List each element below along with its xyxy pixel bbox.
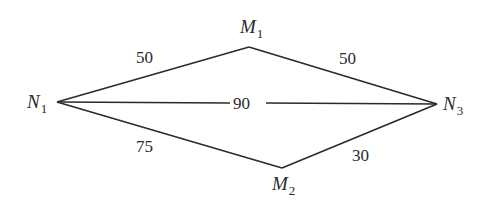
edge-n1-m1: [57, 47, 249, 102]
node-label-n1: N1: [26, 91, 47, 116]
weight-n1-m2: 75: [136, 137, 153, 156]
edge-n1-n3-right: [266, 103, 437, 104]
node-label-n3: N3: [442, 93, 463, 118]
node-label-m2: M2: [271, 173, 295, 198]
graph-diagram: 50 50 90 75 30 N1 M1 N3 M2: [0, 0, 487, 211]
svg-text:N3: N3: [442, 93, 463, 118]
svg-text:N1: N1: [26, 91, 47, 116]
edge-n1-n3-left: [57, 102, 230, 103]
weight-n1-n3: 90: [233, 94, 250, 113]
weight-n1-m1: 50: [136, 48, 153, 67]
svg-text:M2: M2: [271, 173, 295, 198]
svg-text:M1: M1: [239, 16, 263, 41]
weight-m1-n3: 50: [339, 49, 356, 68]
weight-m2-n3: 30: [352, 146, 369, 165]
node-label-m1: M1: [239, 16, 263, 41]
